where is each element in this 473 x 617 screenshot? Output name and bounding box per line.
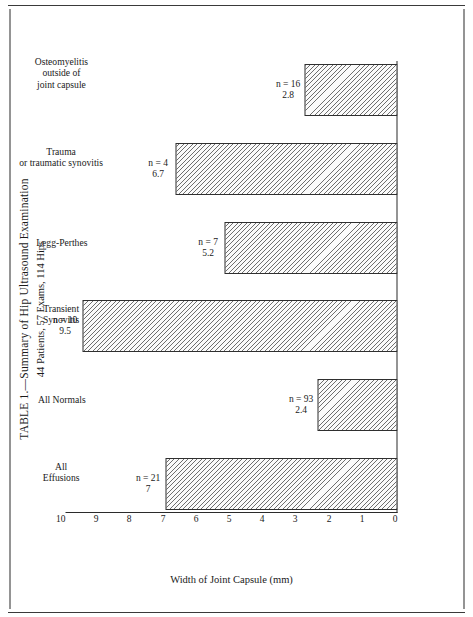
bar-measure-label: 9.5: [53, 326, 77, 337]
bar-value-label: n = 75.2: [198, 236, 218, 257]
category-label: Osteomyelitisoutside ofjoint capsule: [9, 61, 63, 119]
bar-value-label: n = 162.8: [275, 79, 299, 100]
y-axis-ticks: 109876543210: [65, 517, 397, 557]
y-axis-title: Width of Joint Capsule (mm): [65, 571, 397, 587]
bar-measure-label: 6.7: [148, 168, 168, 179]
table-bottom-rule: [463, 9, 464, 609]
bar-measure-label: 2.8: [275, 90, 299, 101]
category-label: Traumaor traumatic synovitis: [9, 139, 63, 197]
y-axis-tick-label: 2: [326, 514, 331, 524]
bar: [317, 379, 397, 431]
bar-value-label: n = 217: [136, 473, 160, 494]
bar-count-label: n = 7: [198, 236, 218, 247]
y-axis-tick-label: 10: [56, 514, 66, 524]
bar-count-label: n = 21: [136, 473, 160, 484]
bar: [165, 458, 397, 510]
category-label: AllEffusions: [9, 455, 63, 513]
bar-measure-label: 7: [136, 484, 160, 495]
page-rule-bottom: [8, 612, 465, 613]
y-axis-tick-label: 5: [226, 514, 231, 524]
bar-value-label: n = 932.4: [289, 394, 313, 415]
bar-value-label: n = 109.5: [53, 315, 77, 336]
y-axis-tick-label: 7: [160, 514, 165, 524]
y-axis-tick-label: 6: [193, 514, 198, 524]
bar-measure-label: 5.2: [198, 247, 218, 258]
y-axis-tick-label: 4: [259, 514, 264, 524]
bar-value-label: n = 46.7: [148, 158, 168, 179]
bar-slot: n = 217: [65, 455, 397, 513]
bar-slot: n = 932.4: [65, 376, 397, 434]
category-label: All Normals: [9, 376, 63, 434]
bar-count-label: n = 16: [275, 79, 299, 90]
y-axis-tick-label: 8: [127, 514, 132, 524]
bar-slot: n = 75.2: [65, 218, 397, 276]
plot-area: n = 217n = 932.4n = 109.5n = 75.2n = 46.…: [65, 61, 397, 513]
bar-series: n = 217n = 932.4n = 109.5n = 75.2n = 46.…: [65, 61, 397, 513]
y-axis-title-label: Width of Joint Capsule (mm): [170, 573, 293, 584]
bar-count-label: n = 4: [148, 158, 168, 169]
bar: [224, 221, 397, 273]
bar-slot: n = 46.7: [65, 139, 397, 197]
y-axis-tick-label: 0: [392, 514, 397, 524]
bar-measure-label: 2.4: [289, 405, 313, 416]
bar-slot: n = 109.5: [65, 297, 397, 355]
table-figure: TABLE 1.—Summary of Hip Ultrasound Exami…: [9, 9, 464, 609]
category-labels: AllEffusionsAll NormalsTransientSynoviti…: [9, 61, 63, 513]
category-label: Legg-Perthes: [9, 218, 63, 276]
page-rule-top: [8, 5, 465, 6]
y-axis-tick-label: 9: [93, 514, 98, 524]
bar: [175, 142, 397, 194]
bar-slot: n = 162.8: [65, 61, 397, 119]
bar-count-label: n = 10: [53, 315, 77, 326]
bar-count-label: n = 93: [289, 394, 313, 405]
y-axis-tick-label: 1: [359, 514, 364, 524]
bar: [304, 64, 397, 116]
y-axis-tick-label: 3: [293, 514, 298, 524]
bar: [82, 300, 397, 352]
